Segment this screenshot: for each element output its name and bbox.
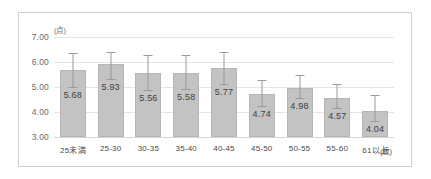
error-bar-cap-upper [182,55,191,56]
bar-value-label: 4.57 [328,111,346,121]
x-axis-tick-label: 25未満 [60,144,86,155]
bar-group[interactable]: 5.56 [130,37,168,137]
y-axis-tick-label: 5.00 [32,82,49,92]
x-axis-tick-label: 35-40 [175,144,196,153]
chart-frame: (点) 7.006.005.004.003.00 5.685.935.565.5… [18,12,412,167]
error-bar-cap-lower [182,89,191,90]
bar-group[interactable]: 4.74 [243,37,281,137]
plot-area: 7.006.005.004.003.00 5.685.935.565.585.7… [54,37,394,137]
gridline [54,137,394,138]
error-bar-line [299,75,300,98]
error-bar-cap-upper [257,80,266,81]
bar-value-label: 5.56 [139,93,157,103]
bar-value-label: 4.04 [366,124,384,134]
error-bar-cap-lower [106,79,115,80]
y-axis-tick-label: 3.00 [32,132,49,142]
error-bar-line [375,95,376,121]
error-bar-cap-lower [257,106,266,107]
error-bar-cap-lower [295,98,304,99]
error-bar-cap-upper [333,84,342,85]
bar-group[interactable]: 5.58 [167,37,205,137]
bar-value-label: 5.58 [177,92,195,102]
error-bar-cap-lower [333,108,342,109]
x-axis-tick-label: 50-55 [289,144,310,153]
bar-series: 5.685.935.565.585.774.744.984.574.04 [54,37,394,137]
y-axis-tick-label: 4.00 [32,107,49,117]
bar-group[interactable]: 5.93 [92,37,130,137]
x-axis-tick-label: 45-50 [251,144,272,153]
x-axis-tick-label: 25-30 [100,144,121,153]
error-bar-cap-lower [219,84,228,85]
y-axis-tick-label: 7.00 [32,32,49,42]
error-bar-cap-upper [295,75,304,76]
error-bar-cap-upper [371,95,380,96]
error-bar-cap-upper [144,55,153,56]
bar-value-label: 5.68 [64,90,82,100]
x-axis-tick-label: 55-60 [327,144,348,153]
bar-group[interactable]: 5.77 [205,37,243,137]
error-bar-line [186,55,187,90]
y-axis-unit-label: (点) [54,24,66,35]
error-bar-line [337,84,338,108]
error-bar-cap-lower [68,87,77,88]
error-bar-cap-lower [144,90,153,91]
bar-group[interactable]: 4.04 [356,37,394,137]
bar-value-label: 5.77 [215,87,233,97]
error-bar-line [148,55,149,90]
error-bar-cap-upper [219,52,228,53]
x-axis-tick-label: 40-45 [213,144,234,153]
error-bar-cap-lower [371,121,380,122]
bar-group[interactable]: 4.98 [281,37,319,137]
error-bar-line [261,80,262,106]
x-axis-tick-label: 30-35 [138,144,159,153]
bar-value-label: 4.74 [253,109,271,119]
error-bar-line [72,53,73,87]
bar-group[interactable]: 5.68 [54,37,92,137]
error-bar-line [223,52,224,84]
error-bar-cap-upper [68,53,77,54]
bar-group[interactable]: 4.57 [318,37,356,137]
bar-value-label: 5.93 [101,82,119,92]
error-bar-line [110,52,111,79]
x-axis-unit-label: (歳) [380,145,392,156]
y-axis-tick-label: 6.00 [32,57,49,67]
bar-value-label: 4.98 [290,101,308,111]
error-bar-cap-upper [106,52,115,53]
